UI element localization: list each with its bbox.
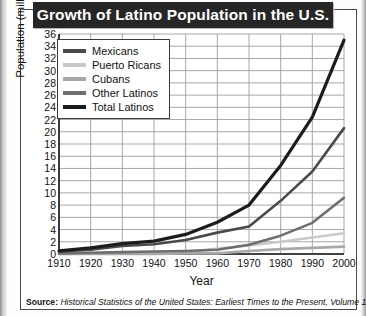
y-axis-tick: 36 <box>44 29 56 40</box>
y-axis-tick: 2 <box>50 237 56 248</box>
x-axis-tick: 1960 <box>206 258 229 269</box>
y-axis-tick: 28 <box>44 78 56 89</box>
source-text: Historical Statistics of the United Stat… <box>60 297 366 307</box>
chart-legend: MexicansPuerto RicansCubansOther Latinos… <box>57 39 170 119</box>
legend-item-total-latinos[interactable]: Total Latinos <box>63 100 161 114</box>
legend-label: Total Latinos <box>92 102 154 113</box>
y-axis-tick: 10 <box>44 188 56 199</box>
legend-swatch-icon <box>63 105 86 109</box>
x-axis-tick: 1920 <box>79 258 102 269</box>
legend-item-other-latinos[interactable]: Other Latinos <box>63 86 161 100</box>
chart-figure: Growth of Latino Population in the U.S. … <box>0 0 366 316</box>
y-axis-tick: 16 <box>44 151 56 162</box>
y-axis-tick: 20 <box>44 127 56 138</box>
x-axis-tick: 1940 <box>142 258 165 269</box>
x-axis-tick: 1930 <box>111 258 134 269</box>
x-axis-title: Year <box>59 274 344 288</box>
legend-item-puerto-ricans[interactable]: Puerto Ricans <box>63 58 161 72</box>
x-axis-tick: 1910 <box>47 258 70 269</box>
y-axis-tick: 12 <box>44 175 56 186</box>
legend-swatch-icon <box>63 91 86 95</box>
legend-swatch-icon <box>63 49 86 53</box>
y-axis-tick: 22 <box>44 114 56 125</box>
x-axis-tick: 1950 <box>174 258 197 269</box>
legend-label: Cubans <box>92 74 130 85</box>
legend-item-cubans[interactable]: Cubans <box>63 72 161 86</box>
page-edge-right <box>361 0 366 316</box>
legend-label: Mexicans <box>92 46 138 57</box>
y-axis-tick: 32 <box>44 53 56 64</box>
y-axis-tick: 6 <box>50 212 56 223</box>
x-axis-tick: 1970 <box>237 258 260 269</box>
legend-swatch-icon <box>63 63 86 67</box>
source-note: Source: Historical Statistics of the Uni… <box>26 297 366 307</box>
y-axis-tick: 30 <box>44 65 56 76</box>
x-axis-tick: 1980 <box>269 258 292 269</box>
legend-label: Puerto Ricans <box>92 60 161 71</box>
source-label: Source: <box>26 297 58 307</box>
y-axis-tick: 34 <box>44 41 56 52</box>
legend-item-mexicans[interactable]: Mexicans <box>63 44 161 58</box>
y-axis-tick: 24 <box>44 102 56 113</box>
y-axis-tick: 8 <box>50 200 56 211</box>
legend-swatch-icon <box>63 77 86 81</box>
chart-title: Growth of Latino Population in the U.S. <box>33 2 333 28</box>
y-axis-tick: 18 <box>44 139 56 150</box>
x-axis-tick: 2000 <box>332 258 355 269</box>
y-axis-tick: 4 <box>50 224 56 235</box>
x-axis-tick: 1990 <box>301 258 324 269</box>
y-axis-title: Population (millions) <box>14 0 26 86</box>
y-axis-tick: 14 <box>44 163 56 174</box>
page-edge-left <box>0 0 7 316</box>
y-axis-tick: 26 <box>44 90 56 101</box>
legend-label: Other Latinos <box>92 88 158 99</box>
plot-area: Population (millions) 024681012141618202… <box>20 30 357 262</box>
